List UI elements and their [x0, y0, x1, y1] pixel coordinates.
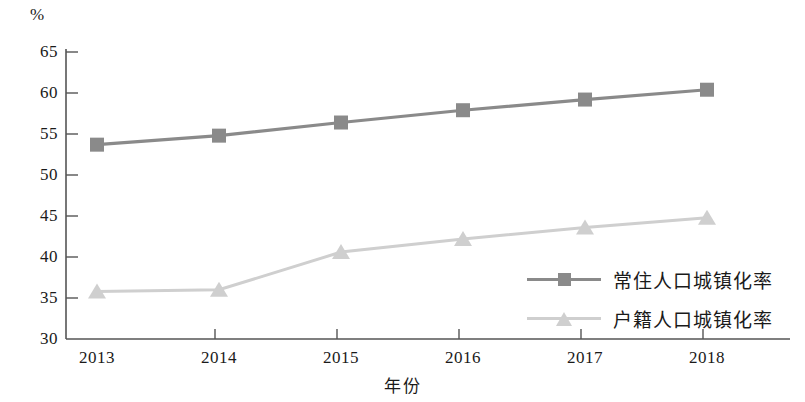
y-axis-ticks [66, 52, 78, 298]
x-tick-label: 2017 [567, 348, 603, 368]
x-axis-title: 年份 [0, 372, 805, 397]
legend-item-household-registration: 户籍人口城镇化率 [527, 305, 773, 332]
legend-label: 户籍人口城镇化率 [613, 305, 773, 332]
legend-swatch-square-icon [527, 271, 601, 289]
x-tick-label: 2015 [323, 348, 359, 368]
legend-label: 常住人口城镇化率 [613, 266, 773, 293]
x-tick-label: 2016 [445, 348, 481, 368]
x-tick-label: 2018 [689, 348, 725, 368]
legend-swatch-triangle-icon [527, 310, 601, 328]
data-point-marker [334, 116, 348, 130]
chart-container: % 65 60 55 50 45 40 35 30 [0, 0, 805, 402]
data-point-marker [700, 83, 714, 97]
legend-item-resident-population: 常住人口城镇化率 [527, 266, 773, 293]
data-point-marker [90, 138, 104, 152]
data-point-marker [456, 103, 470, 117]
data-point-marker [212, 129, 226, 143]
data-point-marker [578, 93, 592, 107]
series-line-resident-population [90, 83, 714, 152]
chart-legend: 常住人口城镇化率 户籍人口城镇化率 [527, 266, 773, 332]
x-tick-label: 2014 [201, 348, 237, 368]
plot-area [0, 0, 805, 402]
x-tick-label: 2013 [79, 348, 115, 368]
